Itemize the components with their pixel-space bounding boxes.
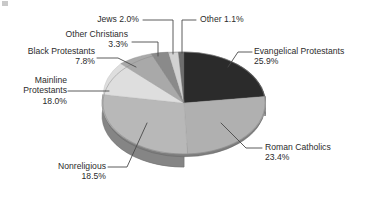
slice-label-mainline-protestants: Mainline Protestants 18.0% bbox=[23, 75, 67, 106]
slice-label-jews: Jews 2.0% bbox=[97, 14, 139, 24]
pie-slice-roman-catholics bbox=[184, 96, 266, 154]
slice-label-evangelical-protestants-pct: 25.9% bbox=[254, 56, 344, 66]
pie-chart-figure: Jews 2.0% Other 1.1% Other Christians 3.… bbox=[0, 0, 368, 197]
slice-label-nonreligious-pct: 18.5% bbox=[58, 171, 106, 181]
pie-slice-nonreligious bbox=[102, 94, 188, 154]
slice-label-mainline-protestants-pct: 18.0% bbox=[23, 96, 67, 106]
slice-label-roman-catholics-pct: 23.4% bbox=[265, 152, 331, 162]
slice-label-other-christians-name: Other Christians bbox=[66, 29, 128, 39]
slice-label-nonreligious-name: Nonreligious bbox=[58, 161, 106, 171]
slice-label-mainline-protestants-name2: Protestants bbox=[23, 85, 67, 95]
slice-label-evangelical-protestants-name: Evangelical Protestants bbox=[254, 46, 344, 56]
slice-label-roman-catholics-name: Roman Catholics bbox=[265, 142, 331, 152]
slice-label-black-protestants: Black Protestants 7.8% bbox=[28, 46, 95, 67]
slice-label-jews-text: Jews 2.0% bbox=[97, 14, 139, 24]
slice-label-roman-catholics: Roman Catholics 23.4% bbox=[265, 142, 331, 163]
slice-label-mainline-protestants-name: Mainline bbox=[35, 75, 67, 85]
pie-slice-evangelical-protestants bbox=[184, 52, 265, 103]
slice-label-evangelical-protestants: Evangelical Protestants 25.9% bbox=[254, 46, 344, 67]
slice-label-nonreligious: Nonreligious 18.5% bbox=[58, 161, 106, 182]
leader-line-other bbox=[182, 20, 196, 53]
slice-label-black-protestants-pct: 7.8% bbox=[28, 56, 95, 66]
slice-label-other: Other 1.1% bbox=[200, 14, 244, 24]
slice-label-other-text: Other 1.1% bbox=[200, 14, 244, 24]
slice-label-black-protestants-name: Black Protestants bbox=[28, 46, 95, 56]
